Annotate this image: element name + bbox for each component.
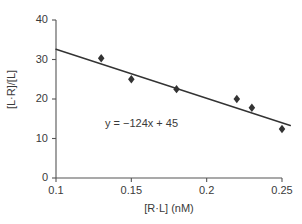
y-tick-label: 10 bbox=[10, 133, 48, 144]
regression-line bbox=[56, 49, 290, 125]
scatter-plot-figure: 0102030400.10.150.20.25 [L·R]/[L] [R·L] … bbox=[0, 0, 302, 224]
axes bbox=[56, 20, 282, 178]
y-tick-label: 40 bbox=[10, 14, 48, 25]
x-tick-label: 0.1 bbox=[31, 185, 81, 196]
regression-equation-label: y = −124x + 45 bbox=[105, 118, 178, 129]
x-tick-label: 0.25 bbox=[257, 185, 302, 196]
data-point-marker bbox=[98, 54, 105, 62]
fit-line-segment bbox=[56, 49, 290, 125]
data-point-marker bbox=[279, 125, 286, 133]
x-tick-label: 0.2 bbox=[182, 185, 232, 196]
data-point-marker bbox=[128, 75, 135, 83]
x-tick-label: 0.15 bbox=[106, 185, 156, 196]
y-tick-label: 0 bbox=[10, 172, 48, 183]
data-point-marker bbox=[234, 95, 241, 103]
y-axis-title: [L·R]/[L] bbox=[6, 53, 17, 127]
x-axis-title: [R·L] (nM) bbox=[56, 203, 282, 214]
data-point-marker bbox=[249, 103, 256, 111]
data-point-marker bbox=[173, 85, 180, 93]
axis-ticks bbox=[52, 20, 282, 182]
